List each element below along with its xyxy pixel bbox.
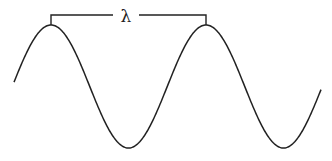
wavelength-bracket-right (139, 15, 206, 25)
wavelength-bracket-left (51, 15, 113, 25)
wavelength-label: λ (121, 6, 132, 26)
wavelength-diagram: λ (0, 0, 332, 161)
sine-wave (14, 25, 321, 148)
